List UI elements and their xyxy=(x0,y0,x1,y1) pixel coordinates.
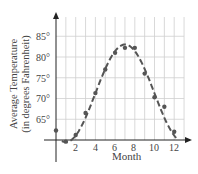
data-point xyxy=(133,46,137,50)
grid-lines xyxy=(56,17,184,140)
y-axis-arrow-icon xyxy=(53,12,59,19)
x-axis-arrow-icon xyxy=(185,137,192,143)
data-point xyxy=(123,46,127,50)
y-axis-label-line-2: (in degrees Fahrenheit) xyxy=(20,35,32,132)
y-tick-85: 85° xyxy=(36,32,50,42)
data-point xyxy=(93,91,97,95)
data-point xyxy=(152,95,156,99)
y-tick-80: 80° xyxy=(36,53,50,63)
x-tick-12: 12 xyxy=(169,143,179,153)
y-axis-label-line-1: Average Temperature xyxy=(8,35,20,132)
fitted-curve xyxy=(62,45,176,143)
y-tick-75: 75° xyxy=(36,74,50,84)
x-tick-2: 2 xyxy=(73,143,78,153)
data-point xyxy=(64,139,68,143)
data-point xyxy=(142,71,146,75)
data-point xyxy=(54,128,58,132)
x-tick-10: 10 xyxy=(149,143,159,153)
x-tick-4: 4 xyxy=(93,143,98,153)
data-point xyxy=(172,130,176,134)
data-point xyxy=(83,111,87,115)
data-point xyxy=(113,51,117,55)
y-tick-65: 65° xyxy=(36,115,50,125)
data-point xyxy=(162,105,166,109)
y-axis-label: Average Temperature (in degrees Fahrenhe… xyxy=(0,28,40,140)
y-tick-70: 70° xyxy=(36,94,50,104)
data-point xyxy=(103,67,107,71)
x-axis-label: Month xyxy=(112,150,141,162)
data-point xyxy=(74,133,78,137)
